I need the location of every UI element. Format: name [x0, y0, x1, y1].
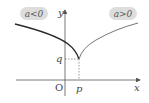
p-label: p — [76, 83, 83, 94]
label-a-positive: a>0 — [114, 9, 133, 19]
origin-label: O — [55, 82, 63, 93]
curve-a-negative — [15, 24, 79, 59]
graph-canvas: a<0 a>0 y x O p q — [0, 0, 149, 103]
y-axis-label: y — [57, 7, 64, 18]
curve-a-positive — [79, 23, 138, 59]
x-axis-label: x — [134, 82, 140, 93]
q-label: q — [56, 53, 62, 64]
label-a-negative: a<0 — [25, 9, 44, 19]
